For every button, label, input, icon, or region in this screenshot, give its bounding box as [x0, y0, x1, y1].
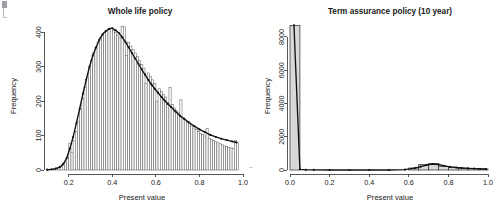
density-point	[220, 138, 222, 140]
x-axis-title-left: Present value	[119, 193, 165, 202]
density-point	[105, 30, 107, 32]
chart-svg-left: Whole life policy 0100200300400 0.20.40.…	[0, 0, 248, 209]
y-tick-label: 0	[277, 168, 286, 172]
x-tick-label: 0.2	[325, 178, 335, 187]
density-point	[144, 74, 146, 76]
chart-panel-term-assurance: Term assurance policy (10 year) 02000400…	[248, 0, 496, 209]
density-point	[443, 165, 445, 167]
histogram-bar	[193, 128, 195, 170]
density-point	[204, 131, 206, 133]
density-point	[101, 33, 103, 35]
density-point	[174, 110, 176, 112]
histogram-bar	[99, 38, 101, 170]
histogram-bar	[180, 100, 182, 170]
histogram-bars-right	[290, 25, 488, 170]
histogram-bar	[101, 35, 103, 170]
histogram-bar	[228, 147, 230, 170]
y-tick-label: 0	[34, 168, 43, 172]
x-tick-label: 0.2	[64, 178, 74, 187]
density-point	[95, 46, 97, 48]
density-point	[131, 52, 133, 54]
histogram-bar	[84, 87, 86, 170]
density-point	[118, 32, 120, 34]
density-point	[134, 57, 136, 59]
histogram-bar	[123, 27, 125, 170]
histogram-bar	[93, 53, 95, 170]
density-point	[141, 68, 143, 70]
histogram-bar	[173, 108, 175, 170]
density-point	[299, 168, 301, 170]
y-tick-label: 300	[34, 61, 43, 73]
density-point	[137, 63, 139, 65]
histogram-bar	[186, 122, 188, 170]
histogram-bar	[208, 138, 210, 170]
histogram-bar	[152, 80, 154, 170]
density-point	[160, 96, 162, 98]
y-tick-label: 100	[34, 130, 43, 142]
density-point	[183, 118, 185, 120]
density-point	[167, 103, 169, 105]
density-point	[108, 28, 110, 30]
histogram-bar	[221, 145, 223, 170]
density-point	[293, 24, 295, 26]
histogram-bar	[125, 56, 127, 170]
density-point	[467, 167, 469, 169]
density-point	[437, 163, 439, 165]
histogram-bar	[145, 83, 147, 170]
histogram-bar	[147, 73, 149, 170]
density-point	[79, 108, 81, 110]
histogram-bar	[136, 56, 138, 170]
histogram-bar	[219, 144, 221, 170]
histogram-bar	[154, 83, 156, 170]
histogram-bar	[223, 146, 225, 170]
density-point	[82, 93, 84, 95]
x-tick-label: 0.6	[404, 178, 414, 187]
histogram-bar	[178, 113, 180, 170]
histogram-bar	[128, 43, 130, 170]
density-point	[193, 125, 195, 127]
histogram-bar	[215, 142, 217, 170]
density-point	[479, 168, 481, 170]
histogram-bar	[184, 120, 186, 170]
density-point	[62, 163, 64, 165]
x-tick-label: 0.4	[107, 178, 117, 187]
y-axis-title-left: Frequency	[9, 78, 18, 114]
y-axis-left: 0100200300400	[34, 26, 44, 172]
histogram-bar	[182, 118, 184, 170]
histogram-bar	[143, 68, 145, 170]
histogram-bar	[73, 140, 75, 170]
histogram-bar	[189, 124, 191, 170]
chart-svg-right: Term assurance policy (10 year) 02000400…	[248, 0, 496, 209]
y-tick-label: 400	[34, 26, 43, 38]
histogram-bar	[204, 136, 206, 170]
histogram-bar	[71, 152, 73, 170]
y-tick-label: 4000	[277, 95, 286, 111]
density-point	[473, 168, 475, 170]
histogram-bar	[138, 61, 140, 170]
density-point	[420, 166, 422, 168]
density-point	[388, 169, 390, 171]
histogram-bar	[91, 61, 93, 170]
histogram-bar	[82, 98, 84, 170]
histogram-bar	[149, 76, 151, 170]
histogram-bar	[110, 28, 112, 170]
histogram-bar	[130, 46, 132, 170]
histogram-bar	[106, 31, 108, 170]
density-point	[198, 128, 200, 130]
histogram-bar	[132, 50, 134, 170]
histogram-bar	[97, 42, 99, 170]
density-point	[209, 134, 211, 136]
histogram-bar	[156, 101, 158, 170]
histogram-bar	[202, 135, 204, 170]
density-point	[72, 136, 74, 138]
x-tick-label: 0.8	[194, 178, 204, 187]
x-axis-right: 0.00.20.40.60.81.0	[285, 174, 493, 187]
histogram-bar	[175, 111, 177, 170]
histogram-bar	[75, 131, 77, 170]
x-tick-label: 1.0	[238, 178, 248, 187]
histogram-bar	[88, 68, 90, 170]
density-point	[88, 66, 90, 68]
histogram-bar	[95, 47, 97, 170]
density-point	[50, 168, 52, 170]
histogram-bar	[112, 30, 114, 170]
